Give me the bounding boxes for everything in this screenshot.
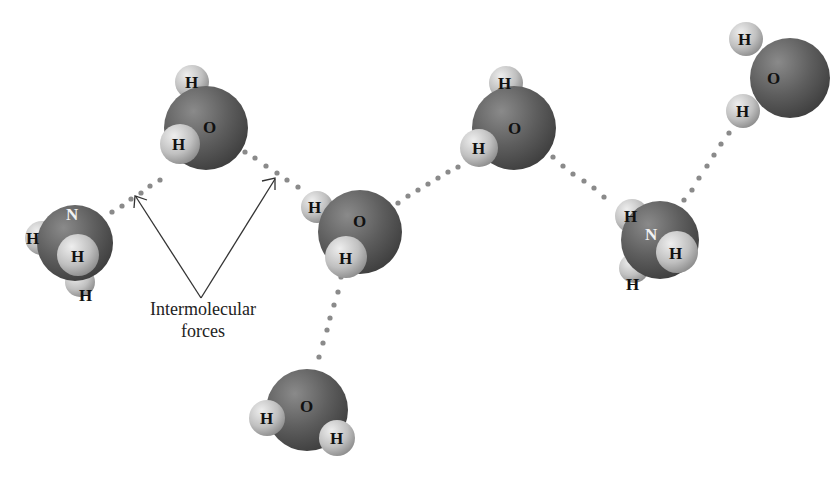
hydrogen-label: H bbox=[738, 30, 751, 49]
oxygen-label: O bbox=[767, 69, 780, 88]
intermolecular-forces-diagram: N H H H H O H H O H H O bbox=[0, 0, 838, 483]
molecule-scene: N H H H H O H H O H H O bbox=[0, 0, 838, 483]
water-molecule-upper-middle: H O H bbox=[460, 66, 556, 170]
hydrogen-label: H bbox=[669, 244, 682, 263]
hydrogen-label: H bbox=[308, 198, 321, 217]
oxygen-label: O bbox=[353, 212, 366, 231]
intermolecular-force-arrows bbox=[134, 178, 275, 298]
hydrogen-label: H bbox=[26, 229, 39, 248]
hydrogen-label: H bbox=[339, 249, 352, 268]
hydrogen-label: H bbox=[71, 247, 84, 266]
ammonia-molecule-left: N H H H bbox=[25, 205, 113, 305]
hydrogen-label: H bbox=[626, 275, 639, 294]
caption-line-1: Intermolecular bbox=[140, 298, 266, 320]
arrowhead-right-icon bbox=[262, 178, 275, 190]
water-molecule-top-right: H O H bbox=[726, 22, 830, 128]
oxygen-label: O bbox=[300, 397, 313, 416]
water-molecule-center: H O H bbox=[301, 190, 402, 278]
hydrogen-label: H bbox=[185, 73, 198, 92]
hydrogen-label: H bbox=[472, 139, 485, 158]
water-molecule-bottom: O H H bbox=[249, 369, 355, 456]
nitrogen-label: N bbox=[66, 205, 79, 224]
hydrogen-label: H bbox=[330, 429, 343, 448]
hydrogen-label: H bbox=[260, 409, 273, 428]
hydrogen-label: H bbox=[79, 286, 92, 305]
water-molecule-upper-left: H O H bbox=[160, 65, 248, 170]
arrow-left bbox=[136, 197, 201, 298]
oxygen-label: O bbox=[508, 119, 521, 138]
arrow-right bbox=[201, 179, 275, 298]
nitrogen-label: N bbox=[645, 225, 658, 244]
oxygen-atom bbox=[750, 38, 830, 118]
caption-line-2: forces bbox=[140, 320, 266, 342]
hydrogen-label: H bbox=[624, 207, 637, 226]
oxygen-label: O bbox=[203, 118, 216, 137]
hydrogen-label: H bbox=[172, 135, 185, 154]
intermolecular-forces-caption: Intermolecular forces bbox=[140, 298, 266, 342]
ammonia-molecule-right: H N H H bbox=[615, 199, 699, 294]
hydrogen-label: H bbox=[498, 74, 511, 93]
hydrogen-label: H bbox=[736, 102, 749, 121]
